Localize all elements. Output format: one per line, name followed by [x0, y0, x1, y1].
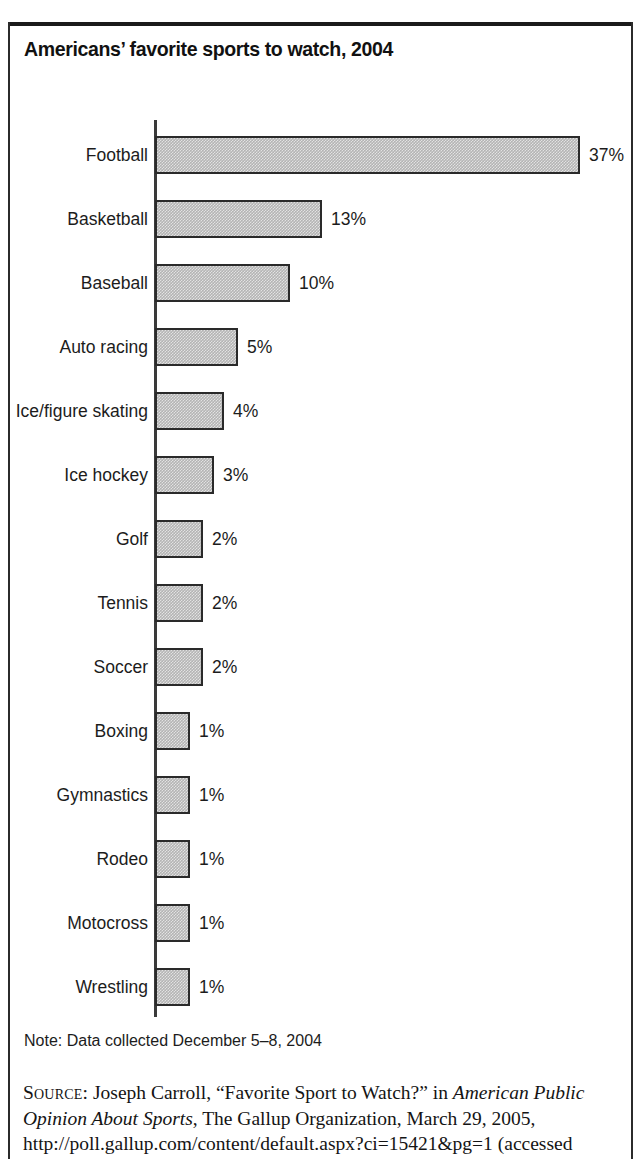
- bar-row: Golf2%: [0, 507, 641, 571]
- category-label: Baseball: [81, 273, 148, 293]
- bar-value-label: 1%: [199, 849, 224, 869]
- category-label: Wrestling: [75, 977, 148, 997]
- bar-value-label: 2%: [212, 593, 237, 613]
- bar-row: Rodeo1%: [0, 827, 641, 891]
- bar: [155, 584, 203, 622]
- bar: [155, 968, 190, 1006]
- bar: [155, 264, 290, 302]
- chart-source: Source: Joseph Carroll, “Favorite Sport …: [23, 1080, 617, 1157]
- bar-value-label: 2%: [212, 529, 237, 549]
- bar-value-label: 10%: [299, 273, 334, 293]
- bar: [155, 456, 214, 494]
- bar-chart-plot-area: Football37%Basketball13%Baseball10%Auto …: [0, 118, 641, 1018]
- chart-title: Americans’ favorite sports to watch, 200…: [24, 36, 393, 62]
- bar-value-label: 5%: [247, 337, 272, 357]
- bar: [155, 712, 190, 750]
- category-label: Soccer: [94, 657, 148, 677]
- chart-note: Note: Data collected December 5–8, 2004: [24, 1031, 322, 1051]
- category-label: Football: [86, 145, 148, 165]
- bar-row: Gymnastics1%: [0, 763, 641, 827]
- bar-value-label: 1%: [199, 977, 224, 997]
- bar: [155, 328, 238, 366]
- category-label: Ice hockey: [64, 465, 148, 485]
- bar-value-label: 3%: [223, 465, 248, 485]
- bar: [155, 776, 190, 814]
- bar-row: Auto racing5%: [0, 315, 641, 379]
- category-label: Gymnastics: [57, 785, 148, 805]
- category-label: Boxing: [94, 721, 148, 741]
- bar-row: Wrestling1%: [0, 955, 641, 1019]
- bar-value-label: 37%: [589, 145, 624, 165]
- bar-row: Boxing1%: [0, 699, 641, 763]
- bar-row: Tennis2%: [0, 571, 641, 635]
- bar-value-label: 4%: [233, 401, 258, 421]
- bar-value-label: 1%: [199, 785, 224, 805]
- source-label: Source:: [23, 1082, 88, 1103]
- bar-row: Ice/figure skating4%: [0, 379, 641, 443]
- bar: [155, 200, 322, 238]
- bar: [155, 840, 190, 878]
- figure-container: Americans’ favorite sports to watch, 200…: [0, 0, 641, 1159]
- bar-value-label: 13%: [331, 209, 366, 229]
- category-label: Golf: [116, 529, 148, 549]
- category-label: Auto racing: [59, 337, 148, 357]
- bar: [155, 520, 203, 558]
- bar-row: Soccer2%: [0, 635, 641, 699]
- frame-top-rule: [8, 22, 633, 26]
- bar-row: Basketball13%: [0, 187, 641, 251]
- bar-value-label: 1%: [199, 721, 224, 741]
- bar-row: Baseball10%: [0, 251, 641, 315]
- bar-row: Motocross1%: [0, 891, 641, 955]
- source-text-before: Joseph Carroll, “Favorite Sport to Watch…: [88, 1082, 453, 1103]
- category-label: Motocross: [67, 913, 148, 933]
- bar-value-label: 1%: [199, 913, 224, 933]
- category-label: Rodeo: [96, 849, 148, 869]
- category-label: Tennis: [97, 593, 148, 613]
- bar: [155, 392, 224, 430]
- bar-row: Football37%: [0, 123, 641, 187]
- category-label: Ice/figure skating: [16, 401, 148, 421]
- bar-value-label: 2%: [212, 657, 237, 677]
- bar: [155, 648, 203, 686]
- bar: [155, 904, 190, 942]
- category-label: Basketball: [67, 209, 148, 229]
- bar-row: Ice hockey3%: [0, 443, 641, 507]
- bar: [155, 136, 580, 174]
